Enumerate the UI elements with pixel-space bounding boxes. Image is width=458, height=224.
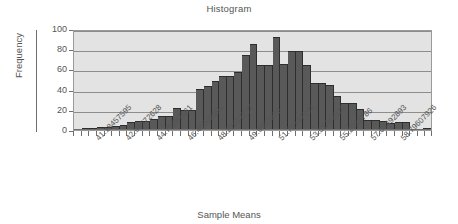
x-tick-label: 48.22917727 (216, 136, 222, 142)
x-axis-title: Sample Means (0, 209, 458, 220)
histogram-bar (280, 64, 288, 130)
histogram-chart: Histogram Frequency 020406080100 41.1845… (0, 0, 458, 224)
x-tick-label: 46.46802694 (186, 136, 192, 142)
histogram-bar (250, 44, 258, 130)
x-tick-label: 53.51262826 (308, 136, 314, 142)
y-axis: 020406080100 (36, 30, 73, 131)
y-axis-title: Frequency (13, 11, 24, 101)
x-tick-label: 44.70687661 (155, 136, 161, 142)
y-tick-label: 80 (37, 45, 67, 54)
y-tick-label: 20 (37, 106, 67, 115)
x-axis-tick-labels: 41.1845759542.9457262844.7068766146.4680… (73, 136, 432, 194)
x-tick-label: 41.18457595 (94, 136, 100, 142)
x-tick-label: 42.94572628 (124, 136, 130, 142)
y-tick-label: 0 (37, 126, 67, 135)
x-tick-label: 57.03492893 (369, 136, 375, 142)
y-tick-label: 100 (37, 25, 67, 34)
x-tick-label: 51.75147793 (277, 136, 283, 142)
x-tick-label: 58.79607926 (399, 136, 405, 142)
y-tick-label: 40 (37, 86, 67, 95)
x-tick-label: 55.2737786 (338, 136, 344, 142)
y-tick-label: 60 (37, 65, 67, 74)
x-tick-label: 49.9903276 (247, 136, 253, 142)
chart-title: Histogram (0, 3, 458, 14)
